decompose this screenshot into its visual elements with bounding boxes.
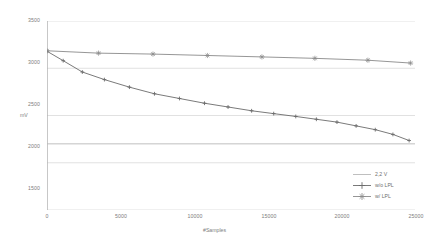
legend-item[interactable]: 2,2 V [352,169,424,180]
y-axis-title: mV [20,113,28,118]
x-tick-label: 15000 [257,214,281,219]
x-tick-label: 20000 [330,214,354,219]
legend-line-icon [352,170,372,179]
y-tick-label: 2000 [8,144,40,149]
y-tick-label: 3500 [8,18,40,23]
y-tick-label: 1500 [8,186,40,191]
legend-item[interactable]: w/o LPL [352,180,424,191]
x-tick-label: 10000 [183,214,207,219]
y-tick-label: 3000 [8,60,40,65]
legend-line-plus-marker-icon [352,181,372,190]
chart-legend: 2,2 V w/o LPL w/ [352,169,424,205]
legend-label: w/ LPL [372,194,391,199]
y-tick-label: 2500 [8,102,40,107]
legend-label: w/o LPL [372,183,394,188]
x-tick-label: 25000 [404,214,428,219]
x-axis-title: #Samples [203,228,226,233]
legend-line-star-marker-icon [352,192,372,201]
legend-item[interactable]: w/ LPL [352,191,424,202]
chart-screenshot: 3500 3000 2500 2000 1500 mV 0 5000 10000… [0,0,435,245]
x-tick-label: 0 [35,214,59,219]
x-tick-label: 5000 [109,214,133,219]
legend-label: 2,2 V [372,172,387,177]
